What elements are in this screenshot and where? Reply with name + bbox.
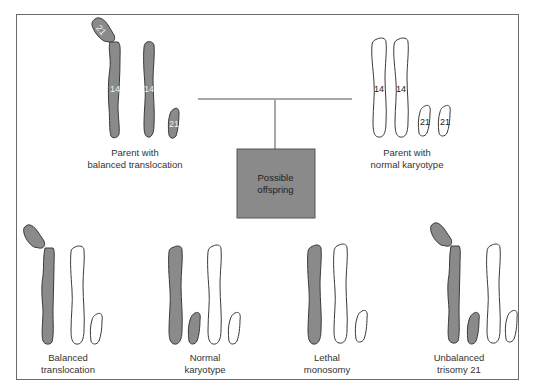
chromosome-label: 21 — [169, 119, 179, 129]
chromosome-21 — [355, 310, 367, 342]
parent-left-chromosomes: 14 14 21 21 — [92, 18, 179, 138]
chromosome-14-fused — [42, 248, 54, 344]
chromosome-21 — [467, 312, 479, 344]
possible-offspring-label: Possible offspring — [236, 148, 315, 219]
chromosome-14 — [334, 244, 348, 343]
chromosome-label: 14 — [110, 84, 120, 94]
offspring-label-unbalanced-trisomy-21: Unbalanced trisomy 21 — [414, 352, 504, 376]
label-line: normal karyotype — [352, 159, 462, 171]
offspring-unbalanced-trisomy-21 — [431, 223, 518, 344]
possible-offspring-line1: Possible — [258, 172, 294, 184]
parent-right-label: Parent with normal karyotype — [352, 147, 462, 171]
label-line: Unbalanced — [414, 352, 504, 364]
label-line: karyotype — [160, 364, 250, 376]
label-line: translocation — [23, 364, 113, 376]
offspring-label-lethal-monosomy: Lethal monosomy — [282, 352, 372, 376]
chromosome-14 — [487, 244, 501, 343]
label-line: Lethal — [282, 352, 372, 364]
chromosome-21 — [228, 312, 240, 344]
label-line: Balanced — [23, 352, 113, 364]
label-line: monosomy — [282, 364, 372, 376]
label-line: Parent with — [352, 147, 462, 159]
offspring-label-normal-karyotype: Normal karyotype — [160, 352, 250, 376]
chromosome-label: 14 — [144, 84, 154, 94]
chromosome-14-fused — [448, 246, 460, 343]
chromosome-label: 14 — [396, 84, 406, 94]
parent-left-label: Parent with balanced translocation — [75, 147, 195, 171]
chromosome-14 — [208, 245, 222, 344]
label-line: Parent with — [75, 147, 195, 159]
chromosome-21 — [90, 313, 102, 344]
offspring-lethal-monosomy — [308, 244, 368, 344]
chromosome-label: 21 — [420, 117, 430, 127]
chromosome-14 — [71, 246, 85, 344]
possible-offspring-line2: offspring — [257, 184, 293, 196]
chromosome-label: 14 — [374, 84, 384, 94]
chromosome-14-fused — [308, 245, 322, 344]
chromosome-14 — [169, 246, 183, 344]
chromosome-21 — [188, 312, 200, 344]
chromosome-21-translocated-piece — [431, 223, 452, 246]
label-line: trisomy 21 — [414, 364, 504, 376]
offspring-balanced-translocation — [24, 225, 103, 344]
chromosome-21 — [505, 310, 517, 342]
chromosome-label: 21 — [440, 117, 450, 127]
label-line: Normal — [160, 352, 250, 364]
label-line: balanced translocation — [75, 159, 195, 171]
offspring-label-balanced-translocation: Balanced translocation — [23, 352, 113, 376]
parent-right-chromosomes: 14 14 21 21 — [372, 38, 451, 137]
chromosome-21-translocated-piece — [24, 225, 45, 248]
offspring-normal-karyotype — [169, 245, 241, 344]
